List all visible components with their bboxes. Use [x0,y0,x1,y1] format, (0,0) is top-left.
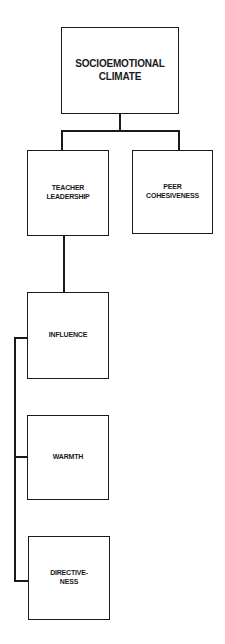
node-label-line1: TEACHER [46,184,89,193]
connector-to-teacher-leadership [61,130,63,151]
node-socioemotional-climate: SOCIOEMOTIONAL CLIMATE [61,27,179,114]
connector-root-horizontal [61,130,179,132]
node-label-line2: CLIMATE [75,71,164,84]
connector-teacher-leadership-down [63,235,65,293]
connector-bracket-directiveness [14,580,28,582]
connector-root-down [119,113,121,131]
connector-bracket-influence [14,337,28,339]
node-teacher-leadership: TEACHER LEADERSHIP [27,150,109,236]
node-label-line1: WARMTH [53,453,83,462]
node-warmth: WARMTH [27,415,109,500]
node-directiveness: DIRECTIVE- NESS [28,536,110,620]
node-label-line2: LEADERSHIP [46,193,89,202]
connector-to-peer-cohesiveness [178,130,180,151]
node-label-line2: COHESIVENESS [146,192,199,201]
node-label-line1: PEER [146,183,199,192]
node-label-line1: DIRECTIVE- [50,569,88,578]
node-influence: INFLUENCE [27,292,109,379]
node-peer-cohesiveness: PEER COHESIVENESS [132,150,213,234]
node-label-line1: INFLUENCE [49,331,87,340]
connector-bracket-vertical [14,337,16,581]
node-label-line1: SOCIOEMOTIONAL [75,58,164,71]
node-label-line2: NESS [50,578,88,587]
connector-bracket-warmth [14,456,28,458]
